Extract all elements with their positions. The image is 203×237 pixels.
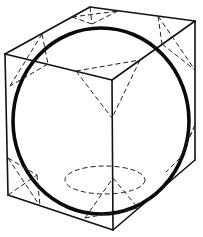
trunc-top-right-b [158, 16, 162, 44]
inscribed-sphere [13, 28, 189, 214]
trunc-top-front-c [112, 60, 140, 118]
edge-top-left-front [5, 54, 112, 80]
trunc-top-back-d [90, 7, 92, 24]
diagram-canvas: cube with inscribed sphere and truncated… [0, 0, 203, 237]
trunc-top-back-b [72, 17, 92, 24]
edge-left-vertical [5, 54, 8, 195]
cube-sphere-figure [0, 0, 203, 237]
edge-top-back-right [90, 7, 195, 21]
trunc-top-front-a [76, 60, 140, 71]
edge-front-vertical [112, 80, 113, 230]
